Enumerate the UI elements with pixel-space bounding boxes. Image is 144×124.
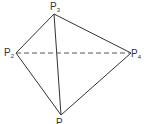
label-subscript: 4 bbox=[138, 54, 141, 60]
edge-p3-p2 bbox=[16, 14, 54, 53]
vertex-label-p3: P3 bbox=[50, 2, 60, 15]
edge-p3-p4 bbox=[54, 14, 131, 53]
edge-p4-p1 bbox=[61, 53, 131, 115]
label-text: P bbox=[131, 48, 138, 59]
label-text: P bbox=[4, 47, 11, 58]
label-subscript: 1 bbox=[63, 123, 66, 124]
tetrahedron-diagram bbox=[0, 0, 144, 124]
label-subscript: 3 bbox=[57, 7, 60, 13]
label-text: P bbox=[56, 117, 63, 124]
edge-p3-p1 bbox=[54, 14, 61, 115]
vertex-label-p4: P4 bbox=[131, 49, 141, 62]
vertex-label-p1: P1 bbox=[56, 118, 66, 124]
label-text: P bbox=[50, 1, 57, 12]
vertex-label-p2: P2 bbox=[4, 48, 14, 61]
edge-p2-p1 bbox=[16, 53, 61, 115]
label-subscript: 2 bbox=[11, 53, 14, 59]
